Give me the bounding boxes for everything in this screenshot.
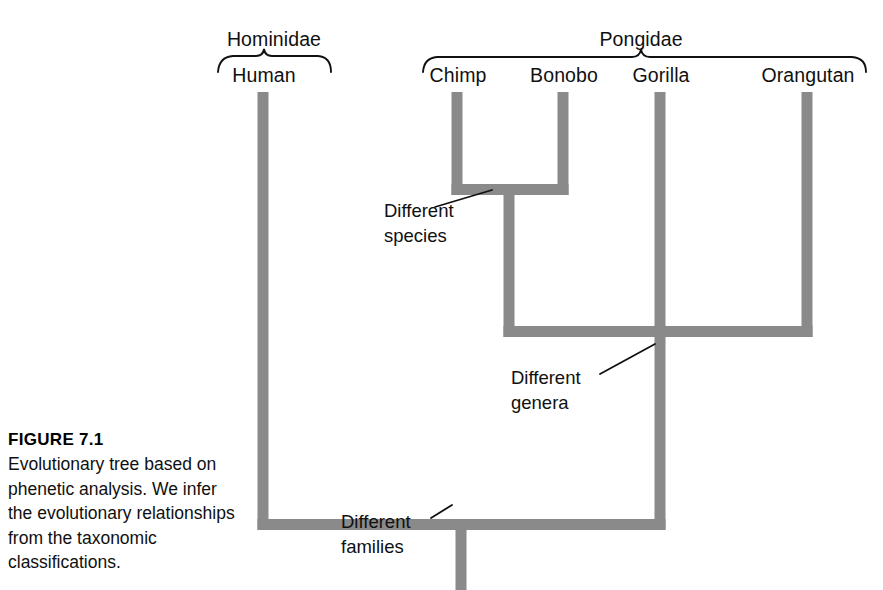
annotation-different-genera: Different genera bbox=[511, 365, 581, 415]
branch-bonobo bbox=[558, 92, 569, 195]
branch-chimp bbox=[452, 92, 463, 195]
branch-gorilla bbox=[655, 92, 666, 530]
branch-root-stem bbox=[456, 519, 467, 590]
tip-label-gorilla: Gorilla bbox=[632, 64, 689, 87]
node-bar-pongid-clade bbox=[504, 326, 813, 337]
tip-label-chimp: Chimp bbox=[430, 64, 487, 87]
tip-label-human: Human bbox=[232, 64, 295, 87]
tip-label-orangutan: Orangutan bbox=[761, 64, 854, 87]
figure-container: Hominidae Pongidae Human Chimp Bonobo Go… bbox=[0, 0, 883, 590]
leader-line-different-families bbox=[431, 505, 452, 518]
annotation-different-families: Different families bbox=[341, 509, 411, 559]
figure-caption: FIGURE 7.1 Evolutionary tree based on ph… bbox=[8, 430, 238, 575]
branch-orangutan bbox=[802, 92, 813, 337]
figure-caption-title: FIGURE 7.1 bbox=[8, 430, 238, 450]
group-label-hominidae: Hominidae bbox=[227, 28, 321, 51]
tip-label-bonobo: Bonobo bbox=[530, 64, 598, 87]
figure-caption-body: Evolutionary tree based on phenetic anal… bbox=[8, 452, 238, 575]
leader-line-different-genera bbox=[600, 344, 655, 374]
group-label-pongidae: Pongidae bbox=[599, 28, 682, 51]
branch-human bbox=[258, 92, 269, 530]
annotation-different-species: Different species bbox=[384, 198, 454, 248]
branch-pan-clade-stem bbox=[504, 184, 515, 337]
